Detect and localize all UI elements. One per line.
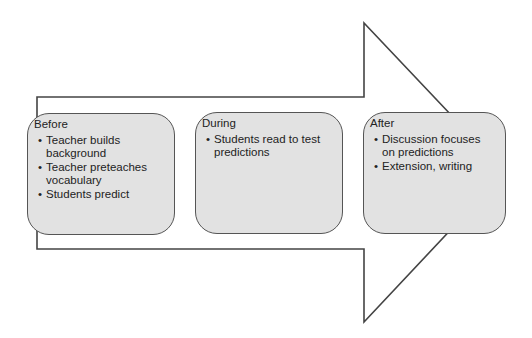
stage-items: Teacher builds background Teacher pretea… bbox=[34, 134, 168, 201]
stage-before: Before Teacher builds background Teacher… bbox=[27, 113, 175, 235]
stage-after: After Discussion focuses on predictions … bbox=[363, 112, 506, 234]
stage-during: During Students read to test predictions bbox=[195, 112, 343, 234]
list-item: Teacher builds background bbox=[46, 134, 168, 160]
stage-title: After bbox=[370, 117, 499, 130]
stage-items: Discussion focuses on predictions Extens… bbox=[370, 133, 499, 173]
list-item: Students predict bbox=[46, 188, 168, 201]
list-item: Discussion focuses on predictions bbox=[382, 133, 487, 159]
list-item: Teacher preteaches vocabulary bbox=[46, 161, 168, 187]
list-item: Students read to test predictions bbox=[214, 133, 324, 159]
stage-items: Students read to test predictions bbox=[202, 133, 336, 159]
list-item: Extension, writing bbox=[382, 160, 499, 173]
stage-title: During bbox=[202, 117, 336, 130]
stage-title: Before bbox=[34, 118, 168, 131]
